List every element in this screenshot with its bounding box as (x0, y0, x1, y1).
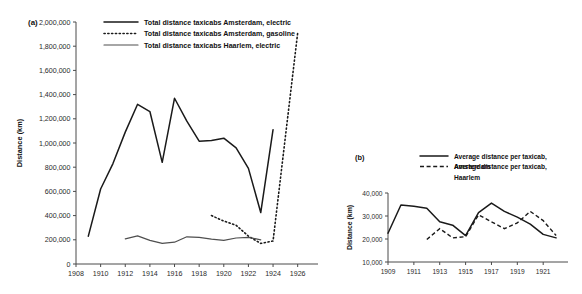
legend-label: Average distance per taxicab, (454, 153, 547, 161)
series-line (125, 236, 260, 244)
x-tick-label-a: 1918 (191, 270, 207, 278)
x-tick-label-b: 1921 (536, 268, 551, 275)
x-tick-label-b: 1915 (458, 268, 473, 275)
y-tick-label-a: 200,000 (45, 236, 71, 244)
x-tick-label-b: 1913 (432, 268, 447, 275)
y-tick-label-b: 30,000 (362, 213, 383, 220)
series-line (427, 211, 556, 239)
x-tick-label-b: 1919 (510, 268, 525, 275)
panel-b: 10,00020,00030,00040,0001909191119131915… (346, 153, 568, 275)
y-tick-label-a: 800,000 (45, 164, 71, 172)
series-line (388, 203, 556, 238)
legend-label: Haarlem (454, 174, 480, 181)
y-tick-label-b: 20,000 (362, 236, 383, 243)
figure-canvas: 0200,000400,000600,000800,0001,000,0001,… (0, 0, 582, 294)
y-axis-title-b: Distance (km) (346, 205, 354, 250)
y-tick-label-a: 1,600,000 (39, 67, 71, 75)
legend-label: Average distance per taxicab, (454, 163, 547, 171)
y-tick-label-a: 1,800,000 (39, 43, 71, 51)
y-tick-label-a: 1,400,000 (39, 91, 71, 99)
legend-label: Total distance taxicabs Amsterdam, gasol… (144, 30, 295, 38)
figure-root: 0200,000400,000600,000800,0001,000,0001,… (0, 0, 582, 294)
series-line (88, 98, 273, 236)
x-tick-label-a: 1912 (117, 270, 133, 278)
y-tick-label-b: 40,000 (362, 190, 383, 197)
x-tick-label-b: 1909 (381, 268, 396, 275)
x-tick-label-a: 1922 (241, 270, 257, 278)
x-tick-label-a: 1926 (290, 270, 306, 278)
x-tick-label-a: 1916 (167, 270, 183, 278)
y-tick-label-a: 0 (67, 261, 71, 269)
x-tick-label-b: 1917 (484, 268, 499, 275)
panel-tag-b: (b) (355, 153, 365, 162)
y-tick-label-a: 400,000 (45, 212, 71, 220)
x-tick-label-a: 1910 (93, 270, 109, 278)
x-tick-label-b: 1911 (407, 268, 422, 275)
panel-tag-a: (a) (28, 18, 38, 27)
panel-a: 0200,000400,000600,000800,0001,000,0001,… (15, 18, 318, 278)
y-tick-label-a: 2,000,000 (39, 19, 71, 27)
y-tick-label-a: 600,000 (45, 188, 71, 196)
y-tick-label-b: 10,000 (362, 259, 383, 266)
x-tick-label-a: 1908 (68, 270, 84, 278)
legend-label: Total distance taxicabs Haarlem, electri… (144, 42, 280, 50)
x-tick-label-a: 1924 (265, 270, 281, 278)
y-tick-label-a: 1,000,000 (39, 140, 71, 148)
y-axis-title-a: Distance (km) (15, 118, 24, 167)
x-tick-label-a: 1914 (142, 270, 158, 278)
y-tick-label-a: 1,200,000 (39, 115, 71, 123)
legend-label: Total distance taxicabs Amsterdam, elect… (144, 19, 291, 27)
x-tick-label-a: 1920 (216, 270, 232, 278)
